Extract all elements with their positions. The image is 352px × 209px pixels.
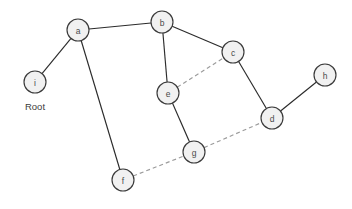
node-e[interactable]: e [157, 82, 179, 104]
edge-g-d [204, 122, 262, 147]
node-c[interactable]: c [222, 41, 244, 63]
node-circle-c[interactable] [222, 41, 244, 63]
edge-b-e [163, 33, 167, 82]
node-d[interactable]: d [261, 107, 283, 129]
node-i[interactable]: i [24, 71, 46, 93]
edge-a-f [81, 41, 120, 170]
node-circle-a[interactable] [67, 19, 89, 41]
edge-d-h [281, 82, 317, 111]
node-a[interactable]: a [67, 19, 89, 41]
annotation-layer: Root [25, 101, 45, 112]
node-circle-g[interactable] [183, 141, 205, 163]
node-h[interactable]: h [314, 64, 336, 86]
edge-e-g [172, 103, 189, 142]
edge-a-b [89, 23, 151, 29]
node-circle-f[interactable] [112, 169, 134, 191]
node-circle-e[interactable] [157, 82, 179, 104]
node-b[interactable]: b [151, 11, 173, 33]
node-f[interactable]: f [112, 169, 134, 191]
node-layer: abcdefghi [24, 11, 336, 191]
edge-f-g [133, 156, 184, 176]
node-circle-i[interactable] [24, 71, 46, 93]
node-circle-b[interactable] [151, 11, 173, 33]
annotation-root: Root [25, 101, 45, 112]
node-circle-d[interactable] [261, 107, 283, 129]
graph-diagram-canvas: abcdefghi Root [0, 0, 352, 209]
node-g[interactable]: g [183, 141, 205, 163]
edge-layer [42, 23, 316, 176]
edge-e-c [177, 58, 223, 87]
node-circle-h[interactable] [314, 64, 336, 86]
edge-b-c [172, 26, 223, 47]
edge-a-i [42, 38, 71, 73]
edge-c-d [239, 61, 267, 108]
graph-svg: abcdefghi Root [0, 0, 352, 209]
